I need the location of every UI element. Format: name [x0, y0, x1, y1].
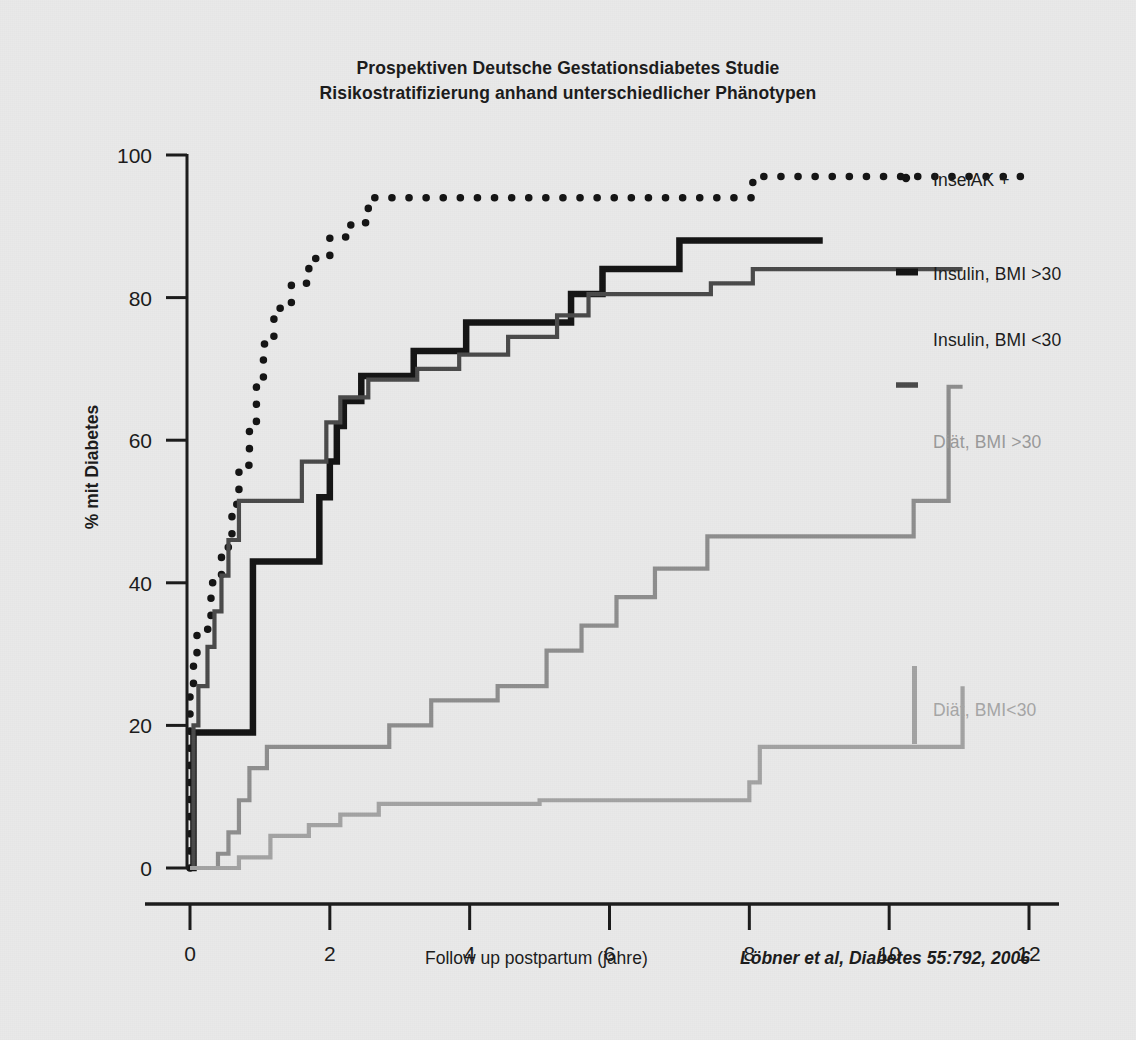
series-curve-inselak — [190, 176, 1029, 868]
series-label-insulin-bmi-lt30: Insulin, BMI <30 — [933, 330, 1061, 351]
x-axis-tick-label: 0 — [184, 942, 196, 965]
series-curve-insulin-bmi-30 — [190, 241, 823, 868]
x-axis-tick-label: 2 — [324, 942, 336, 965]
series-curve-di-t-bmi-30 — [190, 686, 963, 868]
x-axis-title: Follow up postpartum (jahre) — [425, 948, 648, 969]
legend-swatch-insulin-bmi-lt30 — [896, 382, 918, 388]
legend-swatch-diaet-bmi-lt30 — [912, 666, 917, 744]
legend-swatch-insulin-bmi-gt30 — [896, 269, 918, 276]
y-axis-tick-label: 60 — [129, 429, 152, 452]
series-label-diaet-bmi-lt30: Diät, BMI<30 — [933, 700, 1036, 721]
y-axis-tick-label: 100 — [117, 144, 152, 167]
y-axis-tick-label: 0 — [140, 857, 152, 880]
y-axis-title: % mit Diabetes — [82, 367, 103, 567]
y-axis-tick-label: 20 — [129, 714, 152, 737]
legend-swatch-inselak — [902, 174, 910, 182]
curves-layer — [190, 174, 1029, 868]
series-curve-di-t-bmi-30 — [190, 387, 963, 868]
series-label-inselak: InselAK + — [933, 170, 1010, 191]
y-axis-tick-label: 80 — [129, 287, 152, 310]
citation: Löbner et al, Diabetes 55:792, 2006 — [740, 948, 1030, 969]
y-axis-tick-label: 40 — [129, 572, 152, 595]
chart-plot: 020406080100024681012 — [0, 0, 1136, 1040]
series-label-diaet-bmi-gt30: Diät, BMI >30 — [933, 432, 1041, 453]
series-curve-insulin-bmi-30 — [190, 269, 963, 868]
series-label-insulin-bmi-gt30: Insulin, BMI >30 — [933, 264, 1061, 285]
chart-page: Prospektiven Deutsche Gestationsdiabetes… — [0, 0, 1136, 1040]
